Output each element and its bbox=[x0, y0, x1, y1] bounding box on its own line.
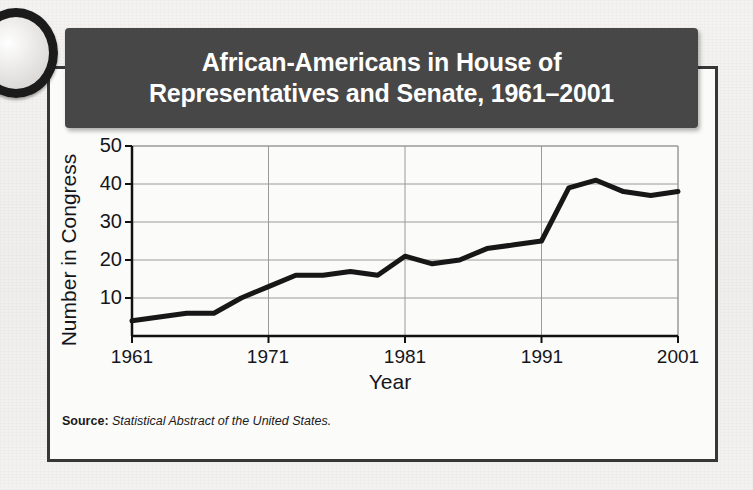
source-text: Statistical Abstract of the United State… bbox=[112, 414, 331, 428]
source-note: Source: Statistical Abstract of the Unit… bbox=[62, 414, 331, 428]
source-label: Source: bbox=[62, 414, 109, 428]
chart-title-banner: African-Americans in House of Representa… bbox=[65, 28, 698, 128]
page-title: African-Americans in House of Representa… bbox=[137, 47, 626, 109]
